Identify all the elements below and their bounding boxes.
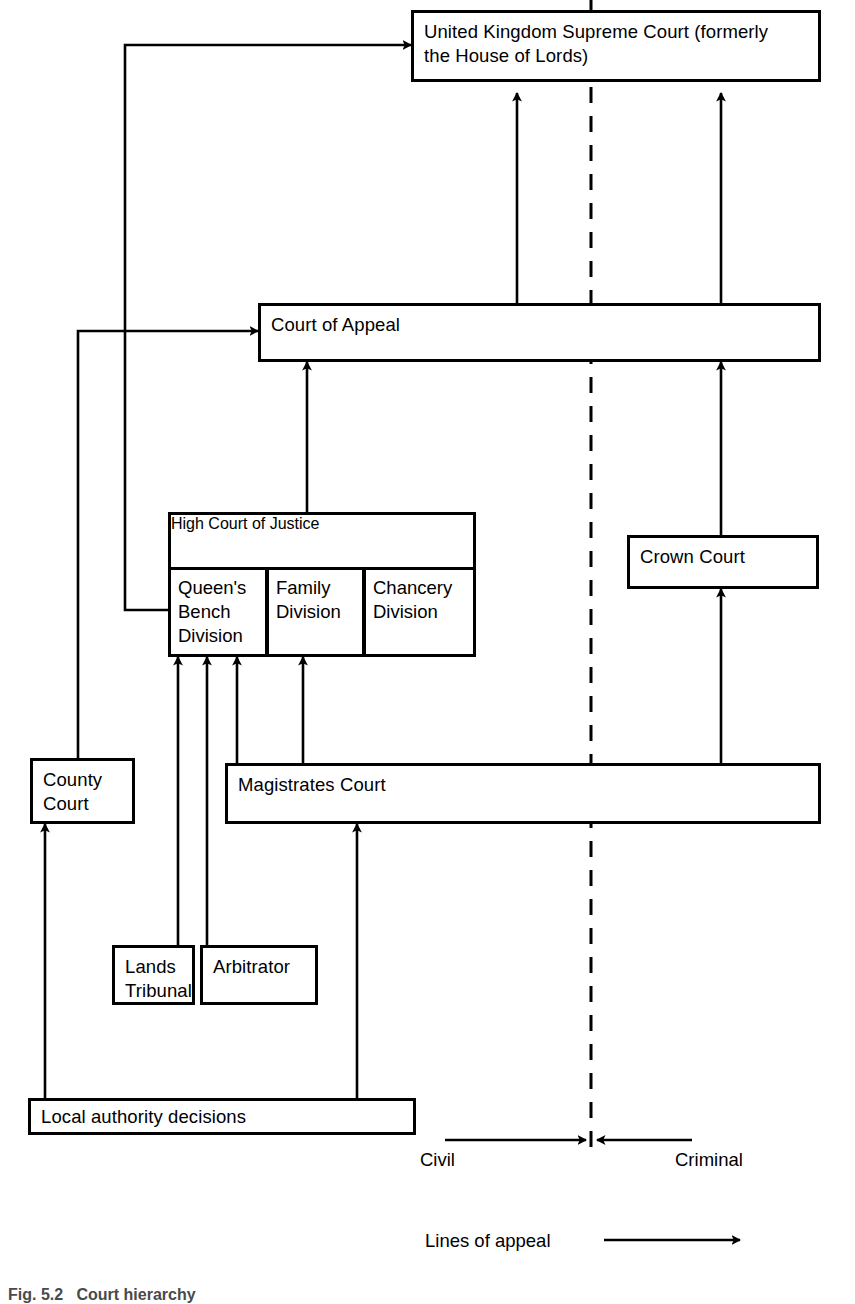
civil-label: Civil <box>420 1148 455 1172</box>
node-local-authority-decisions[interactable]: Local authority decisions <box>28 1098 416 1135</box>
node-queens-bench-division-label: Queen's Bench Division <box>178 576 263 648</box>
node-high-court-group: High Court of Justice Queen's Bench Divi… <box>168 512 476 657</box>
node-lands-tribunal[interactable]: Lands Tribunal <box>112 945 195 1005</box>
criminal-label: Criminal <box>675 1148 743 1172</box>
node-family-division-label: Family Division <box>276 576 360 624</box>
node-chancery-division-label: Chancery Division <box>373 576 471 624</box>
legend-label: Lines of appeal <box>425 1229 551 1253</box>
node-county-court[interactable]: County Court <box>30 758 135 824</box>
node-local-authority-decisions-label: Local authority decisions <box>41 1105 409 1129</box>
node-county-court-label: County Court <box>43 768 128 816</box>
node-crown-court[interactable]: Crown Court <box>627 535 819 589</box>
node-magistrates-court-label: Magistrates Court <box>238 773 814 797</box>
node-supreme-court[interactable]: United Kingdom Supreme Court (formerly t… <box>411 10 821 82</box>
node-crown-court-label: Crown Court <box>640 545 812 569</box>
node-supreme-court-label: United Kingdom Supreme Court (formerly t… <box>424 20 814 68</box>
node-high-court[interactable]: High Court of Justice <box>168 512 476 570</box>
node-chancery-division[interactable]: Chancery Division <box>363 567 476 657</box>
node-arbitrator-label: Arbitrator <box>213 955 311 979</box>
court-hierarchy-diagram: United Kingdom Supreme Court (formerly t… <box>0 0 855 1304</box>
node-court-of-appeal-label: Court of Appeal <box>271 313 814 337</box>
figure-caption: Fig. 5.2 Court hierarchy <box>8 1286 196 1304</box>
node-magistrates-court[interactable]: Magistrates Court <box>225 763 821 824</box>
node-arbitrator[interactable]: Arbitrator <box>200 945 318 1005</box>
node-family-division[interactable]: Family Division <box>266 567 365 657</box>
node-queens-bench-division[interactable]: Queen's Bench Division <box>168 567 268 657</box>
node-court-of-appeal[interactable]: Court of Appeal <box>258 303 821 362</box>
node-high-court-label: High Court of Justice <box>171 515 473 533</box>
node-lands-tribunal-label: Lands Tribunal <box>125 955 188 1003</box>
